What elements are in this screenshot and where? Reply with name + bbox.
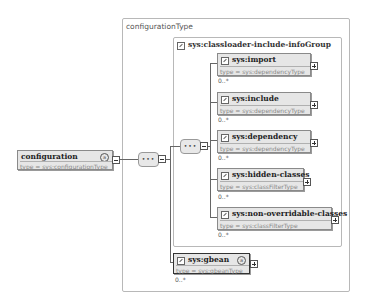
cardinality: 0..* xyxy=(218,154,229,161)
cardinality: 0..* xyxy=(218,231,229,238)
attributes-icon: a xyxy=(237,256,246,265)
root-element-configuration[interactable]: configuration a type = sys:configuration… xyxy=(17,150,113,170)
expand-icon[interactable] xyxy=(310,62,318,70)
configuration-type-title: configurationType xyxy=(126,22,193,31)
collapse-icon[interactable] xyxy=(200,142,208,150)
element-sys-hidden-classes[interactable]: sys:hidden-classes type = sys:classFilte… xyxy=(217,168,304,191)
element-type: type = sys:classFilterType xyxy=(220,181,303,190)
element-type: type = sys:gbeanType xyxy=(176,265,249,274)
element-type: type = sys:dependencyType xyxy=(220,105,310,114)
group-ref-icon xyxy=(177,42,185,50)
element-name: sys:include xyxy=(232,94,279,103)
cardinality: 0..* xyxy=(218,193,229,200)
element-sys-include[interactable]: sys:include type = sys:dependencyType xyxy=(217,92,311,115)
cardinality: 0..* xyxy=(175,276,186,283)
connector-line xyxy=(210,140,217,141)
element-name: sys:non-overridable-classes xyxy=(232,209,347,218)
collapse-icon[interactable] xyxy=(112,156,120,164)
element-sys-gbean[interactable]: sys:gbean a type = sys:gbeanType xyxy=(173,253,250,274)
expand-icon[interactable] xyxy=(310,139,318,147)
expand-icon[interactable] xyxy=(303,178,311,186)
element-name: sys:gbean xyxy=(188,255,229,264)
connector-line xyxy=(170,146,180,147)
connector-line xyxy=(118,159,138,160)
collapse-icon[interactable] xyxy=(158,155,166,163)
expand-icon[interactable] xyxy=(331,216,339,224)
expand-icon[interactable] xyxy=(310,101,318,109)
classloader-group-title: sys:classloader-include-infoGroup xyxy=(188,40,331,49)
element-ref-icon xyxy=(221,211,229,219)
element-name: sys:hidden-classes xyxy=(232,170,309,179)
sequence-icon: ••• xyxy=(181,143,200,149)
connector-line xyxy=(210,179,217,180)
connector-line xyxy=(210,63,217,64)
element-name: sys:import xyxy=(232,55,276,64)
element-type: type = sys:dependencyType xyxy=(220,66,310,75)
connector-line xyxy=(210,102,217,103)
cardinality: 0..* xyxy=(218,116,229,123)
element-ref-icon xyxy=(177,257,185,265)
element-ref-icon xyxy=(221,96,229,104)
connector-line xyxy=(170,146,171,263)
element-ref-icon xyxy=(221,57,229,65)
element-ref-icon xyxy=(221,134,229,142)
element-name: sys:dependency xyxy=(232,132,297,141)
sequence-icon: ••• xyxy=(139,156,158,162)
cardinality: 0..* xyxy=(218,77,229,84)
connector-line xyxy=(210,217,217,218)
expand-icon[interactable] xyxy=(250,260,258,268)
element-type: type = sys:configurationType xyxy=(20,161,112,170)
sequence-compositor[interactable]: ••• xyxy=(180,139,201,154)
element-ref-icon xyxy=(221,172,229,180)
sequence-compositor[interactable]: ••• xyxy=(138,152,159,167)
element-sys-non-overridable-classes[interactable]: sys:non-overridable-classes type = sys:c… xyxy=(217,207,332,230)
element-sys-dependency[interactable]: sys:dependency type = sys:dependencyType xyxy=(217,130,311,153)
element-sys-import[interactable]: sys:import type = sys:dependencyType xyxy=(217,53,311,76)
element-type: type = sys:dependencyType xyxy=(220,143,310,152)
element-type: type = sys:classFilterType xyxy=(220,220,331,229)
element-name: configuration xyxy=(21,152,78,161)
